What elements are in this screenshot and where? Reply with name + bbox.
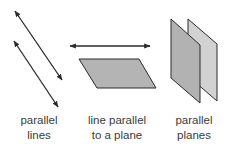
label-parallel-planes: parallel planes <box>149 113 228 143</box>
plane-parallelogram <box>79 59 156 88</box>
double-arrow-line-upper <box>15 11 62 80</box>
parallel-planes-figure <box>171 19 217 103</box>
label-line-1: parallel <box>149 113 228 128</box>
line-parallel-plane-figure <box>70 46 156 88</box>
double-arrow-line-lower <box>14 41 58 107</box>
parallel-lines-figure <box>14 11 62 107</box>
label-line-2: planes <box>149 128 228 143</box>
